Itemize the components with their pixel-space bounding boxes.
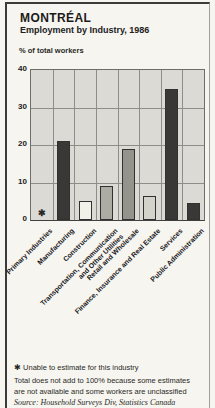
no-data-marker-primary-industries: ✱: [37, 209, 47, 218]
gridline-v-3: [96, 70, 97, 220]
bar-public-administration: [187, 203, 200, 220]
bar-transportation-communication-and-other-utilities: [100, 186, 113, 220]
gridline-v-4: [118, 70, 119, 220]
y-tick-0: 0: [0, 214, 27, 223]
bar-finance-insurance-and-real-estate: [143, 196, 156, 220]
gridline-v-2: [74, 70, 75, 220]
bar-services: [165, 89, 178, 220]
gridline-v-1: [53, 70, 54, 220]
bar-retail-and-wholesale: [122, 149, 135, 220]
gridline-v-6: [161, 70, 162, 220]
source-note: Source: Household Surveys Div, Statistic…: [14, 398, 204, 407]
plot-area: ✱: [30, 69, 205, 221]
footnote-unable-to-estimate: ✱ Unable to estimate for this industry: [14, 363, 202, 372]
gridline-v-7: [182, 70, 183, 220]
footnote-total-note: Total does not add to 100% because some …: [14, 376, 200, 397]
y-tick-30: 30: [0, 102, 27, 111]
y-tick-20: 20: [0, 139, 27, 148]
gridline-v-5: [139, 70, 140, 220]
y-axis-title: % of total workers: [19, 46, 84, 55]
y-tick-10: 10: [0, 177, 27, 186]
y-tick-40: 40: [0, 64, 27, 73]
bar-construction: [79, 201, 92, 220]
bar-manufacturing: [57, 141, 70, 220]
chart-page: { "header": { "title": "MONTRÉAL", "subt…: [0, 0, 215, 408]
chart-subtitle: Employment by Industry, 1986: [20, 25, 149, 35]
chart-title: MONTRÉAL: [20, 11, 91, 25]
